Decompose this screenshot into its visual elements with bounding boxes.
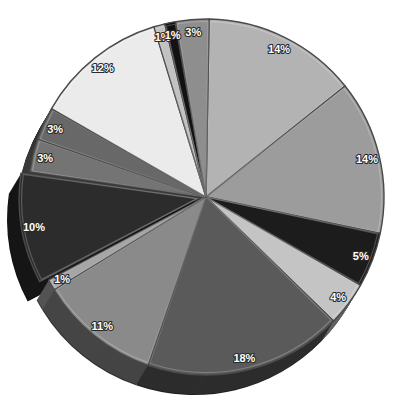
slice-percent-label: 14% [268, 43, 290, 55]
slice-percent-label: 10% [23, 221, 45, 233]
slice-percent-label: 3% [47, 123, 63, 135]
slice-percent-label: 12% [92, 62, 114, 74]
slice-percent-label: 1% [165, 29, 181, 41]
chart-container: 14%14%5%4%18%11%1%10%3%3%12%1%1%3% [0, 0, 394, 414]
slice-percent-label: 11% [92, 320, 114, 332]
slice-percent-label: 4% [330, 291, 346, 303]
slice-percent-label: 14% [356, 153, 378, 165]
slice-percent-label: 3% [37, 152, 53, 164]
slice-percent-label: 3% [185, 26, 201, 38]
slice-percent-label: 1% [54, 273, 70, 285]
slice-percent-label: 5% [353, 250, 369, 262]
pie-chart: 14%14%5%4%18%11%1%10%3%3%12%1%1%3% [0, 0, 394, 414]
slice-percent-label: 18% [233, 352, 255, 364]
